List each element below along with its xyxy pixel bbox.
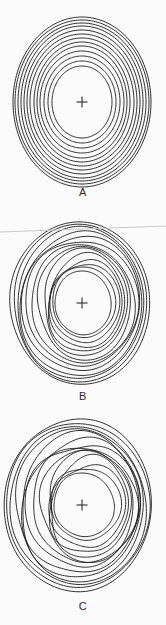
panel-label-b: B	[0, 390, 166, 402]
panel-c-group	[4, 419, 151, 592]
center-cross-icon	[77, 97, 88, 108]
contour-ring	[50, 450, 131, 557]
center-cross-icon	[77, 298, 88, 309]
contour-ring	[25, 446, 140, 567]
panel-a-contours	[0, 0, 166, 625]
panel-label-c: C	[0, 600, 166, 612]
panel-label-a: A	[0, 186, 166, 198]
contour-ring	[39, 450, 133, 562]
panel-b-group	[10, 222, 150, 384]
contour-ring	[45, 248, 128, 356]
contour-ring	[53, 267, 116, 338]
center-cross-icon	[77, 500, 88, 511]
contour-figure: A B C	[0, 0, 166, 625]
panel-a-group	[13, 17, 151, 187]
